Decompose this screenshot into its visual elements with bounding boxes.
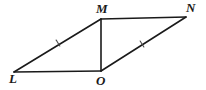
vertex-label-O: O bbox=[96, 74, 105, 87]
vertex-label-M: M bbox=[96, 2, 108, 15]
geometry-figure: L M N O bbox=[0, 0, 206, 90]
segment-ON bbox=[101, 17, 186, 71]
vertex-label-L: L bbox=[9, 72, 17, 85]
segment-LM bbox=[14, 19, 101, 72]
tick-marks-group bbox=[56, 40, 144, 47]
segments-group bbox=[14, 17, 186, 72]
segment-MN bbox=[101, 17, 186, 19]
segment-LO bbox=[14, 71, 101, 72]
vertex-label-N: N bbox=[186, 1, 195, 14]
